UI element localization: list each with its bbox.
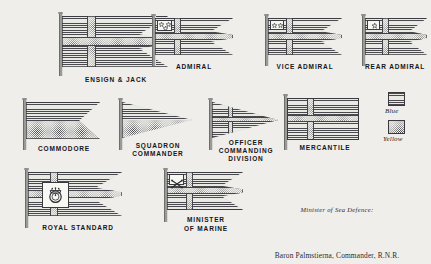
flag-outline [287, 98, 359, 140]
flag-caption-rear-admiral: REAR ADMIRAL [347, 63, 431, 71]
flag-outline [268, 18, 342, 55]
flag-caption-minister-of-marine: MINISTER OF MARINE [163, 215, 249, 233]
flag-caption-vice-admiral: VICE ADMIRAL [259, 63, 351, 71]
flag-caption-admiral: ADMIRAL [151, 63, 237, 71]
flag-outline [167, 172, 243, 210]
legend-swatch-yellow [388, 120, 405, 134]
flag-caption-ensign-jack: ENSIGN & JACK [56, 76, 176, 84]
flag-caption-mercantile: MERCANTILE [285, 144, 365, 152]
legend: Blue Yellow [382, 92, 422, 154]
flag-caption-royal-standard: ROYAL STANDARD [26, 224, 130, 232]
flag-caption-commodore: COMMODORE [22, 145, 106, 153]
flag-outline [155, 18, 233, 55]
flag-outline [28, 172, 122, 216]
flag-body [287, 98, 359, 140]
flag-outline [122, 102, 192, 138]
flag-caption-officer-commanding-division: OFFICER COMMANDING DIVISION [204, 139, 288, 163]
legend-swatch-blue [388, 92, 405, 106]
flag-caption-squadron-commander: SQUADRON COMMANDER [116, 142, 200, 158]
legend-label-yellow: Yellow [383, 135, 417, 143]
flag-outline [26, 102, 100, 139]
legend-label-blue: Blue [385, 107, 415, 115]
signature-title: Minister of Sea Defence: [252, 206, 422, 213]
flag-outline [212, 102, 278, 138]
signature-name: Baron Palmstierna, Commander, R.N.R. [252, 251, 422, 260]
signature-block: Minister of Sea Defence: Baron Palmstier… [252, 170, 422, 264]
flag-outline [365, 18, 427, 55]
